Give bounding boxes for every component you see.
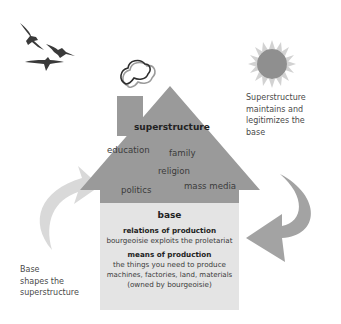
base-section: base relations of production bourgeoisie… [100,209,239,290]
caption-line: superstructure [20,287,79,299]
superstructure-item-politics: politics [121,185,151,196]
superstructure-item-education: education [107,145,150,156]
means-line-2: machines, factories, land, materials [100,270,239,280]
superstructure-item-mass-media: mass media [184,181,236,192]
relations-title: relations of production [100,226,239,236]
caption-line: Superstructure [246,92,306,104]
means-title: means of production [100,250,239,260]
means-line-3: (owned by bourgeoisie) [100,280,239,290]
relations-text: bourgeoisie exploits the proletariat [100,236,239,246]
superstructure-item-religion: religion [158,166,190,177]
superstructure-item-family: family [169,148,196,159]
caption-superstructure-maintains: Superstructure maintains and legitimizes… [246,92,306,138]
sun-icon [248,40,296,88]
means-line-1: the things you need to produce [100,260,239,270]
caption-line: legitimizes the [246,115,306,127]
caption-line: maintains and [246,104,306,116]
superstructure-title: superstructure [134,122,210,133]
caption-line: Base [20,264,79,276]
caption-line: shapes the [20,276,79,288]
base-title: base [100,209,239,222]
smoke-icon [121,61,155,88]
caption-line: base [246,127,306,139]
birds-icon [20,23,75,71]
caption-base-shapes: Base shapes the superstructure [20,264,79,299]
